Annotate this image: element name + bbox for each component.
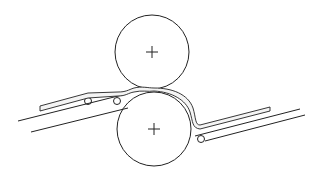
calender-diagram <box>0 0 319 179</box>
support-roller-icon <box>198 136 205 143</box>
material-web <box>40 87 270 129</box>
bottom-roller <box>117 92 191 166</box>
top-roller <box>115 15 189 89</box>
support-roller-icon <box>114 98 121 105</box>
